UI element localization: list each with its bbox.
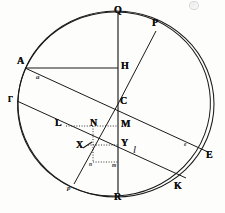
figure-canvas: Q P A H a Γ C L N M Y X e l E n m K p R: [0, 0, 225, 213]
point-label-m: m: [112, 163, 116, 169]
segment-AE: [25, 68, 208, 152]
point-label-L: L: [55, 118, 62, 128]
inner-ellipse-curve: [6, 0, 223, 209]
point-label-Q: Q: [114, 5, 122, 15]
point-label-p: p: [67, 185, 71, 192]
point-label-a: a: [36, 74, 40, 81]
scan-smudge: [189, 1, 199, 10]
point-label-P: P: [152, 18, 158, 28]
diagram-svg: [0, 0, 225, 213]
point-label-Y: Y: [121, 138, 128, 148]
point-label-e: e: [184, 142, 186, 148]
point-label-A: A: [17, 56, 24, 66]
point-label-l: l: [133, 144, 136, 155]
point-label-H: H: [121, 61, 129, 71]
point-label-n: n: [89, 162, 92, 168]
point-label-R: R: [114, 192, 121, 202]
point-label-N: N: [90, 118, 97, 128]
point-label-M: M: [121, 119, 131, 129]
point-label-E: E: [206, 150, 213, 160]
point-label-C: C: [120, 96, 127, 106]
point-label-X: X: [76, 140, 83, 150]
point-label-gamma: Γ: [8, 96, 13, 104]
point-label-K: K: [174, 181, 182, 191]
